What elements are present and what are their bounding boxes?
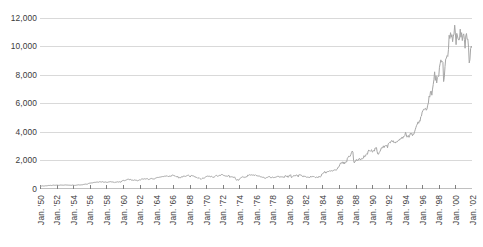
x-tick-label: Jan. '76 xyxy=(253,195,262,225)
y-tick-label: 12,000 xyxy=(0,14,37,23)
x-tick-label: Jan. '64 xyxy=(153,195,162,225)
x-tick-label: Jan. '68 xyxy=(186,195,195,225)
x-tick-label: Jan. '60 xyxy=(120,195,129,225)
y-axis: 02,0004,0006,0008,00010,00012,000 xyxy=(0,0,37,247)
y-tick-label: 0 xyxy=(0,185,37,194)
x-tick-label: Jan. '84 xyxy=(319,195,328,225)
y-tick-label: 6,000 xyxy=(0,99,37,108)
data-series-line xyxy=(40,25,472,186)
x-tick-label: Jan. '66 xyxy=(169,195,178,225)
x-tick-label: Jan. '72 xyxy=(219,195,228,225)
y-tick-label: 4,000 xyxy=(0,128,37,137)
gridlines xyxy=(40,18,472,161)
y-tick-label: 8,000 xyxy=(0,71,37,80)
x-axis: Jan. '50Jan. '52Jan. '54Jan. '56Jan. '58… xyxy=(40,189,483,247)
x-tick-label: Jan. '98 xyxy=(435,195,444,225)
x-tick-label: Jan. '00 xyxy=(452,195,461,225)
x-tick-label: Jan. '58 xyxy=(103,195,112,225)
chart-container: 02,0004,0006,0008,00010,00012,000 Jan. '… xyxy=(0,0,483,247)
x-tick-label: Jan. '88 xyxy=(352,195,361,225)
x-tick-label: Jan. '80 xyxy=(286,195,295,225)
x-tick-label: Jan. '74 xyxy=(236,195,245,225)
x-tick-label: Jan. '82 xyxy=(302,195,311,225)
y-tick-label: 10,000 xyxy=(0,42,37,51)
x-tick-label: Jan. '90 xyxy=(369,195,378,225)
x-tick-label: Jan. '70 xyxy=(203,195,212,225)
plot-area xyxy=(40,18,472,189)
x-tick-label: Jan. '96 xyxy=(419,195,428,225)
x-tick-label: Jan. '54 xyxy=(70,195,79,225)
x-tick-label: Jan. '86 xyxy=(336,195,345,225)
x-tick-label: Jan. '62 xyxy=(136,195,145,225)
x-tick-label: Jan. '02 xyxy=(469,195,478,225)
x-tick-label: Jan. '52 xyxy=(53,195,62,225)
y-tick-label: 2,000 xyxy=(0,156,37,165)
x-tick-label: Jan. '78 xyxy=(269,195,278,225)
line-chart-svg xyxy=(40,18,472,189)
x-tick-label: Jan. '92 xyxy=(385,195,394,225)
x-tick-label: Jan. '50 xyxy=(37,195,46,225)
x-tick-label: Jan. '94 xyxy=(402,195,411,225)
x-tick-label: Jan. '56 xyxy=(86,195,95,225)
